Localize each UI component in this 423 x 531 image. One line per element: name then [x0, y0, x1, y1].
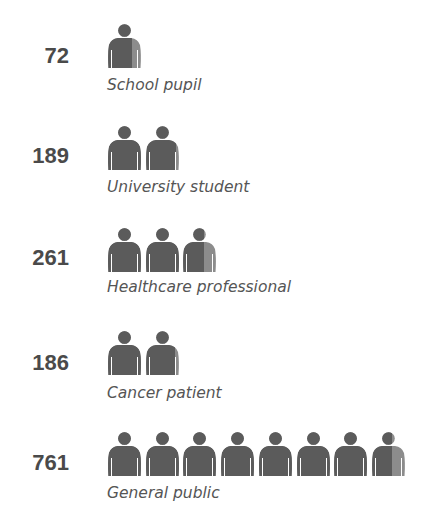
person-icon [107, 432, 142, 477]
person-icon [333, 432, 368, 477]
person-icon [107, 126, 142, 171]
person-icon [182, 432, 217, 477]
value-label: 761 [0, 452, 69, 474]
person-icon [145, 126, 180, 171]
value-label: 189 [0, 145, 69, 167]
person-icon [107, 331, 142, 376]
person-icon [220, 432, 255, 477]
category-label: General public [107, 484, 220, 502]
category-label: School pupil [107, 76, 202, 94]
person-icon [182, 228, 217, 273]
person-icon [107, 24, 142, 69]
person-icon [145, 228, 180, 273]
person-icon [145, 432, 180, 477]
category-label: Cancer patient [107, 384, 222, 402]
category-label: Healthcare professional [107, 278, 291, 296]
value-label: 186 [0, 352, 69, 374]
value-label: 72 [0, 45, 69, 67]
person-icon [258, 432, 293, 477]
value-label: 261 [0, 247, 69, 269]
category-label: University student [107, 178, 249, 196]
person-icon [371, 432, 406, 477]
person-icon [145, 331, 180, 376]
person-icon [296, 432, 331, 477]
person-icon [107, 228, 142, 273]
